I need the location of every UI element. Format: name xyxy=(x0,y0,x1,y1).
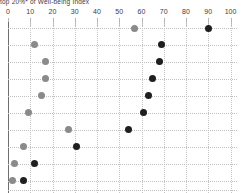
dot-black xyxy=(31,160,38,167)
gridline-horizontal-bottom xyxy=(8,190,237,191)
x-axis-tick-label: 100 xyxy=(225,8,237,16)
gridline-horizontal xyxy=(8,147,237,148)
dot-gray xyxy=(65,126,72,133)
dot-gray xyxy=(11,160,18,167)
dot-black xyxy=(205,25,212,32)
gridline-horizontal xyxy=(8,45,237,46)
gridline-horizontal xyxy=(8,181,237,182)
gridline-horizontal xyxy=(8,28,237,29)
dot-gray xyxy=(9,177,16,184)
dot-black xyxy=(149,75,156,82)
gridline-vertical xyxy=(208,22,209,193)
dot-gray xyxy=(131,25,138,32)
chart-title: top 20%* of Well-being Index xyxy=(0,0,89,5)
dot-gray xyxy=(25,109,32,116)
dot-gray xyxy=(38,92,45,99)
dot-gray xyxy=(31,41,38,48)
gridline-vertical xyxy=(231,22,232,193)
gridline-vertical xyxy=(142,22,143,193)
gridline-vertical xyxy=(53,22,54,193)
gridline-horizontal xyxy=(8,113,237,114)
gridline-horizontal xyxy=(8,164,237,165)
x-axis-tick-label: 20 xyxy=(49,8,57,16)
dot-black xyxy=(73,143,80,150)
chart: top 20%* of Well-being Index 01020304050… xyxy=(0,0,244,193)
dot-black xyxy=(125,126,132,133)
dot-black xyxy=(140,109,147,116)
gridline-horizontal xyxy=(8,130,237,131)
axis-line-left xyxy=(8,22,9,193)
dot-gray xyxy=(20,143,27,150)
x-axis-tick-label: 70 xyxy=(160,8,168,16)
x-axis-tick-label: 90 xyxy=(204,8,212,16)
dot-gray xyxy=(42,75,49,82)
x-axis-tick-label: 30 xyxy=(71,8,79,16)
x-axis-tick-label: 60 xyxy=(138,8,146,16)
dot-black xyxy=(20,177,27,184)
gridline-vertical xyxy=(97,22,98,193)
gridline-vertical xyxy=(30,22,31,193)
x-axis-tick-label: 0 xyxy=(6,8,10,16)
dot-black xyxy=(145,92,152,99)
gridline-vertical xyxy=(164,22,165,193)
gridline-vertical xyxy=(75,22,76,193)
x-axis-tick-label: 80 xyxy=(182,8,190,16)
x-axis-tick-label: 40 xyxy=(93,8,101,16)
x-axis-tick-label: 10 xyxy=(26,8,34,16)
gridline-vertical xyxy=(186,22,187,193)
gridline-vertical xyxy=(119,22,120,193)
dot-gray xyxy=(42,58,49,65)
dot-black xyxy=(156,58,163,65)
x-axis-tick-label: 50 xyxy=(115,8,123,16)
